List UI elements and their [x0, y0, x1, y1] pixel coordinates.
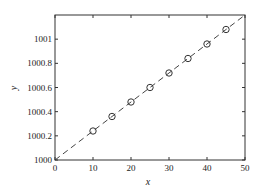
x-tick-label: 20	[127, 163, 137, 173]
scatter-chart: 0102030405010001000.21000.41000.61000.81…	[0, 0, 261, 193]
y-tick-label: 1000.6	[27, 83, 52, 93]
x-tick-label: 0	[53, 163, 58, 173]
y-tick-label: 1000	[34, 155, 53, 165]
data-point	[147, 84, 153, 90]
y-tick-label: 1000.4	[27, 107, 52, 117]
x-tick-label: 50	[241, 163, 251, 173]
x-tick-label: 40	[203, 163, 213, 173]
y-tick-label: 1000.8	[27, 58, 52, 68]
y-tick-label: 1001	[34, 34, 52, 44]
y-tick-label: 1000.2	[27, 131, 52, 141]
y-axis-label: y	[8, 85, 19, 91]
data-point	[90, 128, 96, 134]
axis-ticks: 0102030405010001000.21000.41000.61000.81…	[27, 15, 250, 173]
fit-line	[55, 15, 245, 160]
x-axis-label: x	[145, 176, 151, 187]
data-point	[185, 55, 191, 61]
x-tick-label: 10	[89, 163, 99, 173]
x-tick-label: 30	[165, 163, 175, 173]
